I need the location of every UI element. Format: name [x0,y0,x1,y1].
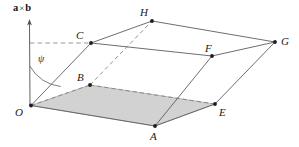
vertex-label-G: G [281,36,289,47]
vertex-label-C: C [76,30,83,41]
vertex-label-F: F [205,43,212,54]
vertex-label-H: H [140,7,148,18]
vertical-axis [27,19,32,106]
figure-canvas [0,0,299,147]
edge-H-G [152,21,275,42]
angle-arc-psi [30,66,61,87]
vertex-label-O: O [15,107,23,118]
edge-E-G [215,42,275,104]
axis-label-cross-product: a×b [13,3,31,14]
axis-label-vector-b: b [25,2,31,13]
vertex-dot-G [273,40,277,44]
angle-label-psi: ψ [38,54,44,64]
edge-C-F [91,43,212,56]
vertex-dot-O [29,104,33,108]
vertex-label-B: B [77,72,84,83]
vertex-dot-E [213,102,217,106]
vertex-dot-H [150,19,154,23]
edge-C-H [91,21,152,43]
vertex-dot-B [88,83,92,87]
geometry-figure: a×b ψ O A B C E F G H [0,0,299,147]
vertex-dot-C [89,41,93,45]
vertex-dot-A [153,124,157,128]
vertex-dot-F [210,54,214,58]
vertex-label-A: A [150,131,157,142]
edge-F-G [212,42,275,56]
vertex-label-E: E [219,107,226,118]
shaded-base-face [31,85,215,126]
edge-B-H [90,21,152,85]
